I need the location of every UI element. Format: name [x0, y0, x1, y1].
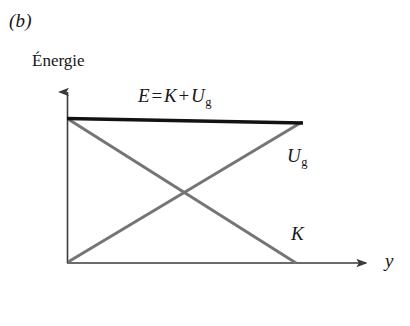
equation-equals: = [151, 85, 162, 106]
potential-energy-label-subscript: g [301, 155, 307, 169]
y-axis-title: Énergie [32, 52, 85, 69]
potential-energy-label: Ug [287, 146, 307, 168]
equation-plus: + [178, 85, 189, 106]
potential-energy-line [68, 122, 302, 262]
equation-lhs: E [138, 85, 150, 106]
panel-label: (b) [9, 11, 32, 30]
potential-energy-label-symbol: U [287, 145, 301, 166]
equation-term2-subscript: g [205, 95, 212, 109]
equation-term1: K [164, 85, 177, 106]
equation-term2: U [191, 85, 205, 106]
total-energy-equation: E=K+Ug [138, 86, 212, 108]
plot-canvas [0, 0, 410, 326]
energy-diagram-figure: (b) Énergie E=K+Ug Ug K y [0, 0, 410, 326]
total-energy-line [67, 119, 303, 124]
kinetic-energy-label-symbol: K [291, 223, 304, 244]
x-axis-label: y [385, 251, 393, 270]
kinetic-energy-label: K [291, 224, 304, 243]
